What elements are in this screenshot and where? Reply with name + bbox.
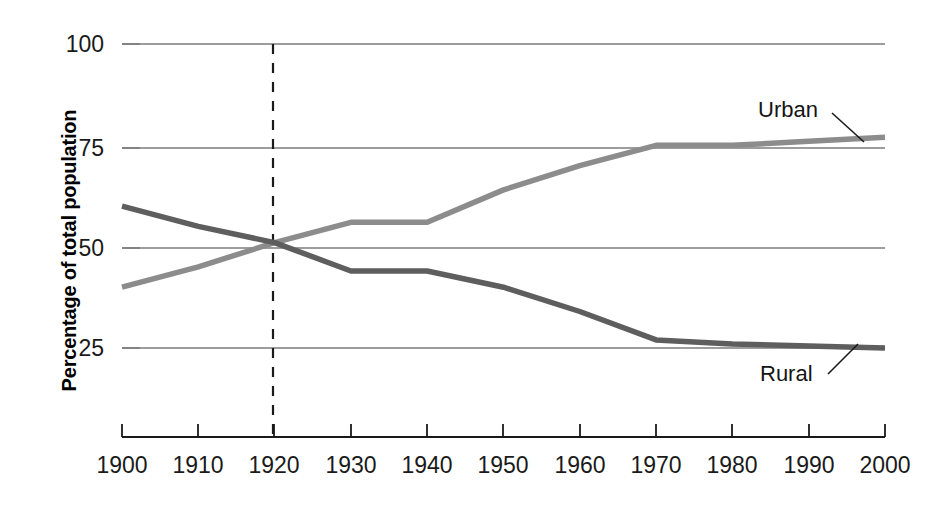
- chart-figure: Percentage of total population 100 75 50…: [0, 0, 949, 508]
- x-axis-tick-label-1900: 1900: [82, 452, 162, 479]
- x-axis-tick-label-1920: 1920: [234, 452, 314, 479]
- x-axis: [122, 424, 885, 437]
- x-axis-tick-label-1960: 1960: [540, 452, 620, 479]
- x-axis-tick-label-1940: 1940: [387, 452, 467, 479]
- series-line-urban: [122, 137, 885, 287]
- x-axis-tick-label-1980: 1980: [692, 452, 772, 479]
- y-axis-tick-label-100: 100: [48, 31, 104, 58]
- y-axis-tick-label-75: 75: [48, 135, 104, 162]
- series-annotation-urban: Urban: [758, 97, 818, 123]
- x-axis-tick-label-1950: 1950: [463, 452, 543, 479]
- x-axis-tick-label-2000: 2000: [845, 452, 925, 479]
- x-axis-tick-label-1970: 1970: [616, 452, 696, 479]
- series-annotation-rural: Rural: [760, 361, 813, 387]
- gridlines: [122, 44, 885, 348]
- x-axis-tick-label-1930: 1930: [311, 452, 391, 479]
- x-axis-tick-label-1910: 1910: [158, 452, 238, 479]
- y-axis-ticks: [122, 44, 140, 348]
- series-line-rural: [122, 206, 885, 348]
- y-axis-tick-label-50: 50: [48, 235, 104, 262]
- chart-plot-area: [0, 0, 949, 508]
- x-axis-tick-label-1990: 1990: [769, 452, 849, 479]
- y-axis-tick-label-25: 25: [48, 335, 104, 362]
